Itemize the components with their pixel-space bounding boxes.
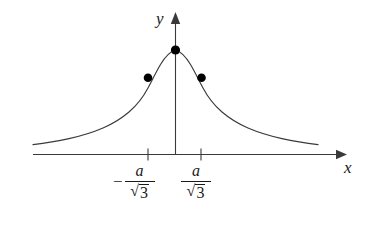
figure-canvas: y x − a √ 3 a √ 3 [0, 0, 377, 229]
fraction-denominator: √ 3 [184, 182, 209, 202]
radical-sign-glyph: √ [130, 183, 139, 202]
fraction-numerator: a [189, 163, 203, 181]
fraction-numerator: a [133, 163, 147, 181]
minus-sign: − [113, 172, 123, 192]
marker-inflection-left [144, 74, 153, 83]
y-axis-label: y [156, 10, 164, 27]
x-tick-label-positive: a √ 3 [181, 163, 211, 202]
x-tick-label-negative: − a √ 3 [113, 163, 155, 202]
y-axis [171, 12, 180, 155]
fraction-denominator: √ 3 [127, 182, 152, 202]
marker-maximum [171, 45, 180, 54]
radicand: 3 [139, 184, 149, 202]
square-root-icon: √ 3 [187, 183, 206, 202]
fraction-positive: a √ 3 [181, 163, 211, 202]
radicand: 3 [195, 184, 205, 202]
x-axis-label: x [344, 159, 352, 176]
x-axis [33, 150, 347, 159]
y-axis-arrowhead [171, 12, 180, 24]
square-root-icon: √ 3 [130, 183, 149, 202]
marker-inflection-right [197, 74, 206, 83]
fraction-negative: a √ 3 [125, 163, 155, 202]
radical-sign-glyph: √ [187, 183, 196, 202]
